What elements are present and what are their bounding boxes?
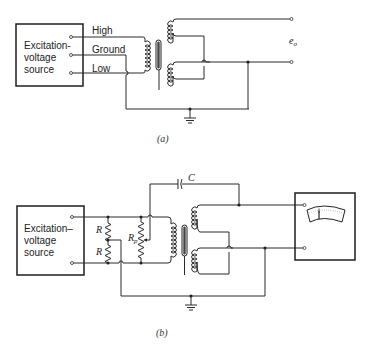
wiper-wire [144, 217, 150, 240]
source-label-line2-a: voltage [24, 52, 57, 63]
secondary-lower-coil-b [192, 248, 233, 274]
wire-bottom-bus-b [74, 260, 172, 263]
output-terminal-top [290, 18, 293, 21]
core-b-fill [183, 227, 185, 255]
meter-terminal-bottom [303, 247, 306, 250]
source-label-line1-a: Excitation- [24, 40, 71, 51]
circuit-diagrams: Excitation- voltage source High Ground L… [0, 0, 369, 350]
meter-dial-icon [307, 206, 345, 222]
label-r-bottom: R [95, 246, 102, 257]
primary-coil-a [145, 39, 150, 71]
label-rp: Rp [127, 232, 138, 245]
secondary-upper-coil-b [192, 205, 239, 247]
resistor-top [105, 217, 111, 241]
source-label-line3-b: source [24, 247, 54, 258]
secondary-upper-coil-a [168, 19, 210, 62]
figure-b: Excitation– voltage source R R Rp C [17, 172, 355, 339]
wire-capacitor-out [182, 184, 239, 205]
label-high: High [92, 25, 113, 36]
terminal-ground [70, 54, 73, 57]
meter-terminal-top [303, 204, 306, 207]
terminal-low [70, 72, 73, 75]
source-label-line1-b: Excitation– [24, 223, 73, 234]
primary-coil-b [171, 220, 176, 260]
output-terminal-bottom [290, 61, 293, 64]
meter-box [295, 193, 355, 260]
resistor-bottom [105, 240, 111, 263]
source-label-line2-b: voltage [24, 235, 57, 246]
label-r-top: R [95, 224, 102, 235]
capacitor-plate-right [181, 179, 182, 189]
potentiometer-rp [138, 217, 144, 263]
wire-to-capacitor [150, 184, 178, 217]
label-ground: Ground [92, 44, 125, 55]
wire-top-bus-b [74, 215, 172, 220]
terminal-top-b [71, 216, 74, 219]
label-low: Low [92, 63, 111, 74]
figure-a: Excitation- voltage source High Ground L… [16, 18, 297, 146]
caption-a: (a) [157, 133, 169, 145]
source-label-line3-a: source [24, 64, 54, 75]
core-a-fill [157, 42, 159, 69]
label-capacitor: C [188, 172, 195, 183]
secondary-lower-coil-a [168, 62, 210, 86]
terminal-bottom-b [71, 262, 74, 265]
output-voltage-label: eo [289, 35, 297, 48]
terminal-high [70, 36, 73, 39]
caption-b: (b) [156, 327, 168, 339]
